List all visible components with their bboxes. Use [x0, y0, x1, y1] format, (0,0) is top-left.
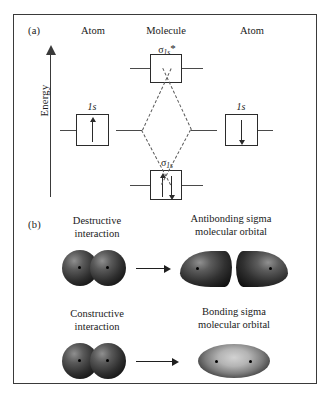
level-line-atom-right-inner	[191, 130, 217, 131]
reaction-arrow-constructive-head-icon	[172, 358, 179, 366]
column-header-atom-right: Atom	[207, 25, 297, 36]
panel-b-tag: (b)	[28, 219, 41, 230]
orbital-label-atom-left: 1s	[68, 101, 116, 112]
nucleus-dot	[269, 267, 272, 270]
energy-axis-line	[50, 53, 51, 197]
antibonding-lobe-left	[180, 251, 232, 287]
level-line-bonding-left	[130, 185, 152, 186]
caption-antibonding-sigma-mo: Antibonding sigma molecular orbital	[166, 213, 296, 238]
nucleus-dot	[215, 360, 218, 363]
electron-arrow-up-shaft	[92, 120, 93, 142]
caption-constructive: Constructive interaction	[52, 308, 142, 333]
level-line-antibonding-left	[130, 68, 152, 69]
caption-destructive: Destructive interaction	[52, 215, 142, 240]
energy-axis-label: Energy	[39, 61, 50, 141]
electron-arrow-up-head-icon	[90, 117, 96, 122]
nucleus-dot	[106, 266, 109, 269]
level-line-bonding-right	[181, 185, 203, 186]
reaction-arrow-constructive-shaft	[136, 361, 174, 362]
antibonding-lobe-right	[236, 251, 288, 287]
nucleus-dot	[249, 360, 252, 363]
panel-b-orbital-overlap: (b) Destructive interaction Antibonding …	[14, 205, 318, 385]
orbital-label-atom-right: 1s	[217, 101, 265, 112]
nucleus-dot	[106, 359, 109, 362]
bonding-molecular-orbital-lobe	[198, 344, 270, 378]
level-line-atom-left-inner	[116, 130, 142, 131]
orbital-box-atom-left-1s	[76, 114, 109, 146]
electron-pair-arrow-down-head-icon	[169, 195, 175, 200]
atomic-sphere-right-destructive	[90, 250, 126, 286]
orbital-box-atom-right-1s	[225, 114, 258, 146]
electron-arrow-down-shaft	[241, 120, 242, 142]
atomic-sphere-right-constructive	[90, 343, 126, 379]
column-header-molecule: Molecule	[121, 25, 211, 36]
orbital-label-bonding: σ1s	[142, 157, 192, 170]
electron-pair-arrow-down-shaft	[171, 176, 172, 197]
nucleus-dot	[78, 359, 81, 362]
panel-a-tag: (a)	[28, 25, 40, 36]
caption-bonding-sigma-mo: Bonding sigma molecular orbital	[174, 306, 294, 331]
energy-axis: Energy	[32, 45, 58, 197]
nucleus-dot	[78, 266, 81, 269]
level-line-antibonding-right	[181, 68, 203, 69]
reaction-arrow-destructive-shaft	[136, 268, 166, 269]
reaction-arrow-destructive-head-icon	[164, 265, 171, 273]
panel-a-energy-diagram: (a) Atom Molecule Atom Energy 1s 1s	[14, 15, 318, 205]
nucleus-dot	[196, 267, 199, 270]
electron-arrow-down-head-icon	[239, 140, 245, 145]
figure-panel: (a) Atom Molecule Atom Energy 1s 1s	[13, 14, 317, 384]
